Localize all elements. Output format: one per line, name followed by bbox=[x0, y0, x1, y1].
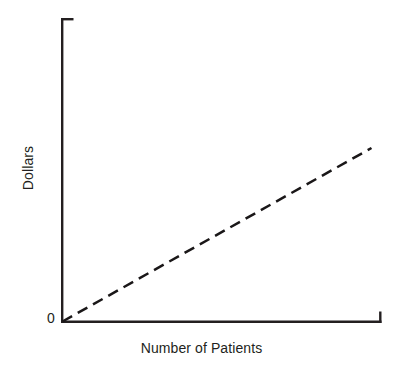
origin-tick-label: 0 bbox=[47, 311, 55, 325]
chart-figure: 0 Number of Patients Dollars bbox=[0, 0, 403, 373]
plot-area bbox=[0, 0, 403, 373]
x-axis-label: Number of Patients bbox=[0, 341, 403, 355]
series-line-total-cost bbox=[63, 148, 372, 322]
